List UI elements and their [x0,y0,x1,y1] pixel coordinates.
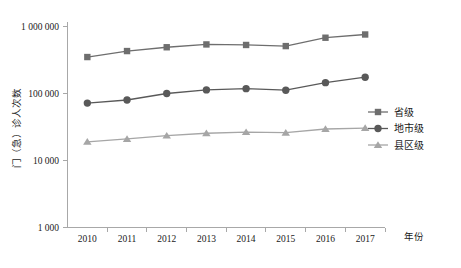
y-tick-label: 1 000 [38,223,60,233]
data-point-marker [362,31,368,37]
data-point-marker [164,44,170,50]
y-tick-label: 10 000 [33,156,59,166]
data-point-marker [322,79,329,86]
data-point-marker [242,85,249,92]
x-tick-label: 2010 [78,234,97,244]
y-axis-tick-labels: 1 000 000 100 000 10 000 1 000 [21,22,59,233]
legend-label: 县区级 [394,140,424,151]
data-point-marker [203,86,210,93]
series-2 [84,74,369,107]
data-point-marker [163,90,170,97]
x-tick-label: 2012 [157,234,176,244]
x-axis-ticks [107,228,385,232]
line-chart: 1 000 000 100 000 10 000 1 000 门（急）诊人次数 … [0,0,461,268]
x-tick-label: 2016 [316,234,335,244]
data-point-marker [124,48,130,54]
y-tick-label: 100 000 [28,89,59,99]
series-3 [83,124,369,144]
data-point-marker [203,41,209,47]
x-axis-title: 年份 [404,231,424,242]
series-group [83,31,369,145]
x-tick-label: 2015 [276,234,295,244]
data-point-marker [84,99,91,106]
data-point-marker [361,74,368,81]
data-point-marker [322,35,328,41]
data-point-marker [123,96,130,103]
y-tick-label: 1 000 000 [21,22,59,32]
data-point-marker [243,42,249,48]
chart-container: 1 000 000 100 000 10 000 1 000 门（急）诊人次数 … [0,0,461,268]
data-point-marker [283,43,289,49]
series-1 [84,31,368,60]
x-tick-label: 2013 [197,234,216,244]
legend-label: 地市级 [394,122,424,134]
y-axis-ticks [63,27,68,228]
x-tick-label: 2017 [356,234,375,244]
data-point-marker [282,87,289,94]
legend-label: 省级 [394,106,414,118]
x-tick-label: 2011 [118,234,137,244]
legend-marker [375,109,381,115]
y-axis-title: 门（急）诊人次数 [11,88,22,168]
legend-marker [374,125,381,132]
data-point-marker [84,54,90,60]
x-tick-label: 2014 [237,234,256,244]
chart-legend: 省级地市级县区级 [368,106,424,151]
x-axis-tick-labels: 20102011201220132014201520162017 [78,234,375,244]
